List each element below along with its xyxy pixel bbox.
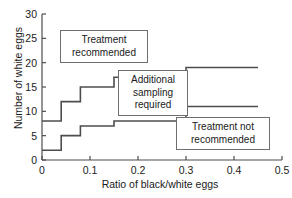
x-tick-label: 0.2 (131, 164, 146, 176)
y-tick-label: 30 (25, 8, 37, 20)
y-tick-label: 10 (25, 105, 37, 117)
y-tick-label: 25 (25, 32, 37, 44)
y-tick-label: 0 (31, 154, 37, 166)
x-tick-label: 0.1 (83, 164, 98, 176)
y-tick-label: 15 (25, 81, 37, 93)
y-tick-label: 5 (31, 130, 37, 142)
annotation-treatment-recommended: Treatment recommended (60, 30, 148, 63)
annotation-treatment-not-recommended: Treatment not recommended (176, 117, 270, 150)
x-tick-label: 0.4 (227, 164, 242, 176)
chart-figure: Number of white eggs Ratio of black/whit… (0, 0, 292, 198)
y-axis-label: Number of white eggs (12, 8, 24, 148)
x-tick-label: 0.5 (275, 164, 290, 176)
y-tick-label: 20 (25, 57, 37, 69)
x-tick-label: 0.3 (179, 164, 194, 176)
annotation-additional-sampling-required: Additional sampling required (118, 70, 188, 116)
x-tick-label: 0 (39, 164, 45, 176)
x-axis-label: Ratio of black/white eggs (40, 178, 280, 190)
